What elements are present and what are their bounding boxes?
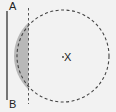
geometry-diagram: A B X xyxy=(0,0,116,112)
label-b: B xyxy=(9,98,16,110)
dashed-circle xyxy=(17,10,109,102)
label-x-center: X xyxy=(64,51,72,63)
label-a: A xyxy=(9,0,17,12)
shaded-circle-segment xyxy=(14,23,28,90)
